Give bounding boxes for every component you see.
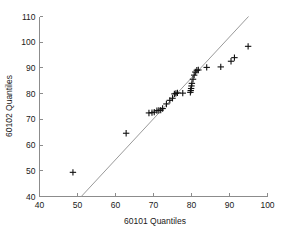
quantile-reference-line xyxy=(81,17,248,197)
x-tick-label-60: 60 xyxy=(111,200,121,210)
x-axis-title: 60101 Quantiles xyxy=(124,216,186,226)
y-tick-label-60: 60 xyxy=(26,140,36,150)
data-point xyxy=(204,64,210,70)
data-point xyxy=(163,101,169,107)
y-tick-label-40: 40 xyxy=(26,192,36,202)
plot-canvas: 405060708090100 405060708090100110 60101… xyxy=(0,0,290,235)
y-tick-label-80: 80 xyxy=(26,89,36,99)
x-tick-label-90: 90 xyxy=(225,200,235,210)
x-tick-label-70: 70 xyxy=(149,200,159,210)
y-tick-label-110: 110 xyxy=(22,12,36,22)
qq-plot-figure: 405060708090100 405060708090100110 60101… xyxy=(0,0,290,235)
x-tick-label-40: 40 xyxy=(35,200,45,210)
y-tick-label-group: 405060708090100110 xyxy=(21,12,35,202)
y-tick-label-100: 100 xyxy=(21,37,35,47)
data-point-group xyxy=(70,43,252,175)
x-tick-label-50: 50 xyxy=(73,200,83,210)
x-tick-label-80: 80 xyxy=(187,200,197,210)
x-tick-label-group: 405060708090100 xyxy=(35,200,275,210)
data-point xyxy=(180,90,186,96)
data-point xyxy=(70,169,76,175)
y-tick-label-70: 70 xyxy=(26,114,36,124)
reference-line xyxy=(81,17,248,197)
data-point xyxy=(190,76,196,82)
data-point xyxy=(231,54,237,60)
x-tick-label-100: 100 xyxy=(260,200,274,210)
y-tick-label-50: 50 xyxy=(26,166,36,176)
y-tick-group xyxy=(40,17,44,197)
axis-group xyxy=(40,17,268,197)
y-tick-label-90: 90 xyxy=(26,63,36,73)
data-point xyxy=(228,58,234,64)
data-point xyxy=(123,130,129,136)
data-point xyxy=(218,64,224,70)
y-axis-title: 60102 Quantiles xyxy=(4,75,14,137)
data-point xyxy=(245,43,251,49)
x-tick-group xyxy=(40,193,268,197)
